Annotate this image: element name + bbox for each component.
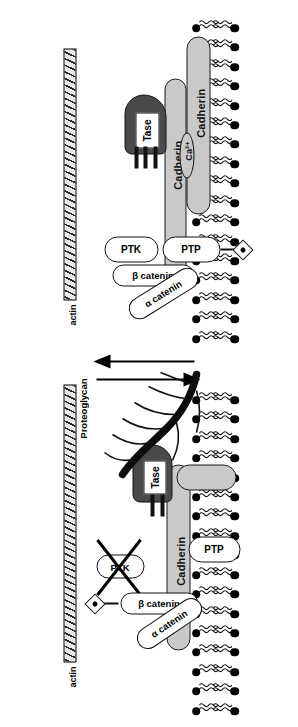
ptp-label-2: PTP — [204, 543, 223, 554]
ptk-label: PTK — [121, 244, 141, 255]
phospholipid — [191, 697, 210, 723]
tase-label-box: Tase — [135, 112, 159, 148]
tase-connector-2 — [144, 146, 148, 168]
cadherin-opposing-label: Cadherin — [194, 88, 206, 137]
lipid-bilayer-upper — [216, 18, 242, 348]
ptp-label: PTP — [181, 243, 200, 254]
panel-adhesive-state: actin Cadherin Cadherin Ca²⁺ Tase PTP PT… — [0, 0, 298, 360]
tase-connector-1 — [154, 146, 158, 168]
actin-label: actin — [67, 304, 77, 325]
cadherin-shed-label: Cadherin — [174, 536, 186, 585]
actin-filament — [63, 48, 76, 300]
ptk-protein: PTK — [104, 236, 158, 262]
phospholipid — [219, 697, 238, 723]
leaflet-outer-left — [216, 18, 242, 348]
phospholipid — [219, 325, 238, 351]
ptp-protein-2: PTP — [188, 536, 240, 562]
ptp-protein: PTP — [162, 236, 220, 262]
ptk-crossed-group: PTK — [88, 536, 150, 598]
tase-connector-3 — [135, 146, 139, 168]
phospholipid — [191, 325, 210, 351]
actin-label-2: actin — [67, 666, 77, 687]
proteoglycan-shape — [92, 370, 202, 498]
calcium-ion-label: Ca²⁺ — [183, 140, 193, 160]
figure-canvas: actin Cadherin Cadherin Ca²⁺ Tase PTP PT… — [0, 0, 298, 727]
rotated-figure: actin Cadherin Cadherin Ca²⁺ Tase PTP PT… — [0, 0, 298, 727]
actin-filament-2 — [63, 384, 76, 662]
tase-label: Tase — [142, 119, 153, 141]
panel-disassembled-state: actin Cadherin Tase Proteoglycan PTP — [0, 360, 298, 727]
proteoglycan-label: Proteoglycan — [77, 378, 88, 438]
